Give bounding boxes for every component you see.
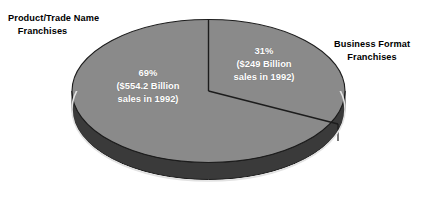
pie-chart: Product/Trade Name Franchises Business F… (0, 0, 427, 213)
slice-business-period: sales in 1992) (205, 70, 323, 83)
slice-product-amount: ($554.2 Billion (83, 79, 213, 92)
callout-label-product-trade-name: Product/Trade Name Franchises (8, 12, 99, 37)
callout-product-line2: Franchises (8, 25, 99, 38)
slice-business-percent: 31% (205, 44, 323, 57)
slice-data-label-business-format: 31% ($249 Billion sales in 1992) (205, 44, 323, 84)
slice-business-amount: ($249 Billion (205, 57, 323, 70)
slice-data-label-product-trade-name: 69% ($554.2 Billion sales in 1992) (83, 66, 213, 106)
slice-product-period: sales in 1992) (83, 92, 213, 105)
callout-business-line2: Franchises (334, 51, 410, 64)
slice-product-percent: 69% (83, 66, 213, 79)
callout-label-business-format: Business Format Franchises (334, 38, 410, 63)
callout-business-line1: Business Format (334, 38, 410, 51)
callout-product-line1: Product/Trade Name (8, 12, 99, 25)
